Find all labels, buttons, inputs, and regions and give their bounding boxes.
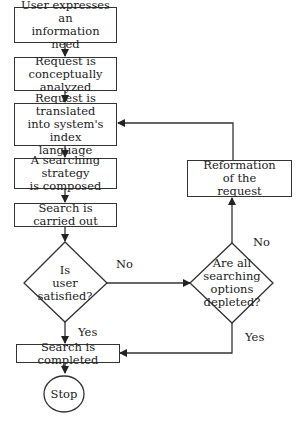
node-text: Search is completed: [19, 341, 117, 367]
node-text-line: request: [217, 184, 261, 198]
decision-text-line: user: [52, 276, 78, 290]
node-text-line: into system's index: [28, 117, 104, 144]
node-user-expresses-need: User expresses aninformation need: [14, 7, 117, 43]
stop-terminal: Stop: [44, 388, 84, 401]
decision-text-line: Are all: [213, 256, 251, 270]
edge-label-d1-yes: Yes: [78, 326, 97, 339]
node-text-line: information need: [31, 24, 99, 51]
decision-text-line: searching: [203, 269, 260, 283]
node-text-line: Reformation: [203, 158, 276, 172]
edge-label-d2-yes: Yes: [245, 331, 264, 344]
decision-text-line: satisfied?: [38, 289, 93, 303]
node-search-carried-out: Search is carried out: [14, 203, 117, 227]
node-request-analyzed: Request isconceptually analyzed: [14, 57, 117, 91]
node-reformation: Reformationof therequest: [187, 160, 292, 197]
node-strategy-composed: A searching strategyis composed: [14, 158, 117, 189]
node-request-translated: Request is translatedinto system's index…: [14, 103, 117, 146]
decision-text-line: options: [211, 282, 254, 296]
decision-text-options-depleted: Are all searching options depleted?: [195, 257, 269, 309]
decision-text-user-satisfied: Is user satisfied?: [30, 264, 100, 303]
node-text-line: conceptually analyzed: [28, 67, 102, 94]
node-text-line: User expresses an: [21, 0, 110, 25]
node-text-line: A searching strategy: [31, 153, 100, 180]
decision-text-line: depleted?: [204, 295, 261, 309]
node-text-line: of the: [223, 171, 257, 185]
decision-text-line: Is: [60, 263, 70, 277]
node-text-line: Request is: [35, 54, 96, 68]
node-text-line: is composed: [30, 179, 102, 193]
edge-label-d1-no: No: [116, 258, 133, 271]
edge-label-d2-no: No: [253, 236, 270, 249]
node-search-completed: Search is completed: [16, 344, 120, 363]
node-text: Search is carried out: [17, 202, 114, 228]
stop-text: Stop: [51, 387, 78, 401]
node-text-line: Request is translated: [35, 91, 96, 118]
